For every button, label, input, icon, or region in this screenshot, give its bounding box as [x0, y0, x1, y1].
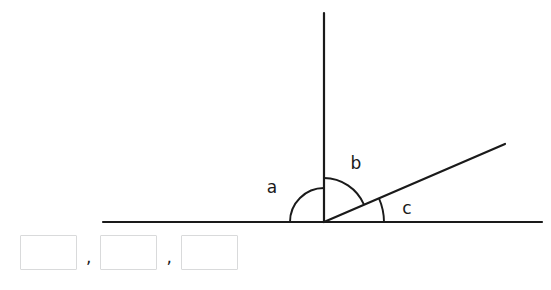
answer-box-c[interactable] — [181, 235, 238, 270]
answer-box-a[interactable] — [20, 235, 77, 270]
angle-label-a: a — [267, 177, 277, 197]
answer-box-b[interactable] — [100, 235, 157, 270]
arc-b — [324, 178, 364, 205]
arc-a — [290, 188, 324, 222]
arc-c — [379, 198, 384, 222]
angle-label-c: c — [402, 198, 411, 218]
answer-separator-1: , — [77, 249, 100, 270]
angle-label-b: b — [351, 153, 362, 173]
answer-separator-2: , — [157, 249, 180, 270]
answer-row: , , — [20, 235, 238, 270]
